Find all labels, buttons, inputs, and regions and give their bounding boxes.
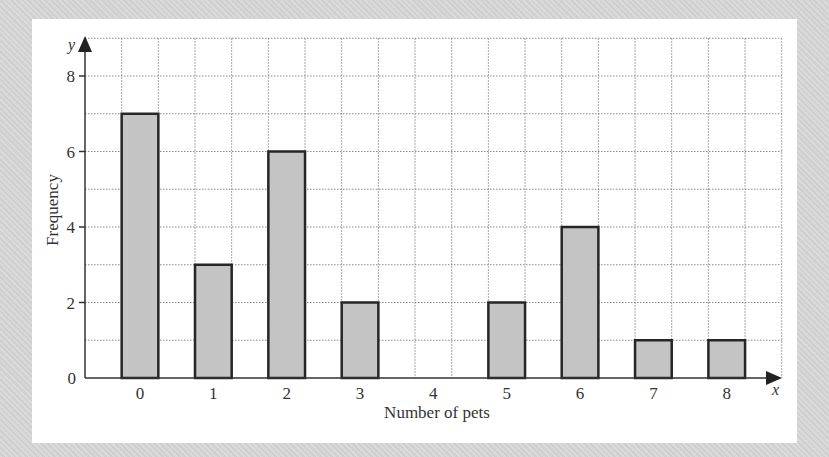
- y-axis-title: Frequency: [43, 174, 62, 246]
- x-tick-label: 2: [282, 384, 291, 403]
- x-tick-label: 3: [356, 384, 365, 403]
- bars: [122, 114, 745, 378]
- bar-1: [195, 265, 232, 378]
- y-tick-label: 2: [67, 294, 76, 313]
- bar-7: [635, 340, 672, 378]
- x-axis-variable: x: [771, 381, 779, 398]
- bar-8: [708, 340, 745, 378]
- x-tick-labels: 012345678: [136, 384, 731, 403]
- x-tick-label: 4: [429, 384, 438, 403]
- x-tick-label: 8: [722, 384, 731, 403]
- y-tick-labels: 02468: [67, 67, 86, 388]
- bar-6: [562, 227, 599, 378]
- x-tick-label: 0: [136, 384, 145, 403]
- bar-0: [122, 114, 159, 378]
- y-tick-label: 8: [67, 67, 76, 86]
- x-axis-title: Number of pets: [384, 403, 490, 422]
- x-tick-label: 6: [576, 384, 585, 403]
- bar-chart: 02468 012345678 y x Number of pets Frequ…: [0, 0, 829, 457]
- bar-5: [488, 303, 525, 379]
- y-axis-variable: y: [66, 36, 76, 54]
- bar-2: [268, 152, 305, 379]
- bar-3: [342, 303, 379, 379]
- y-axis-arrow-icon: [78, 36, 92, 52]
- grid-lines: [85, 38, 782, 378]
- x-tick-label: 7: [649, 384, 658, 403]
- y-tick-label: 6: [67, 143, 76, 162]
- y-tick-label: 0: [68, 369, 77, 388]
- axes: [78, 36, 782, 385]
- y-tick-label: 4: [67, 218, 76, 237]
- x-tick-label: 1: [209, 384, 218, 403]
- x-tick-label: 5: [502, 384, 511, 403]
